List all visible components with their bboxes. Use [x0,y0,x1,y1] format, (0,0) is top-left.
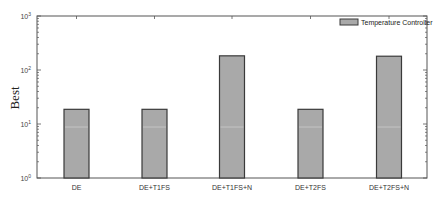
bar-de [64,109,89,178]
bar-de-t2fs [298,109,323,178]
x-tick-label: DE [72,184,82,191]
legend-swatch [340,19,358,25]
bar-de-t2fs-n [377,56,402,178]
bar-de-t1fs [142,109,167,178]
x-tick-label: DE+T2FS [295,184,326,191]
y-tick-label: 101 [20,119,31,128]
y-tick-label: 103 [20,11,31,20]
y-tick-label: 100 [20,173,31,182]
legend: Temperature Controller [340,19,433,27]
y-axis-label: Best [7,86,22,110]
bar-de-t1fs-n [220,56,245,178]
bars [64,56,402,178]
y-tick-label: 102 [20,65,31,74]
x-tick-label: DE+T1FS [139,184,170,191]
x-tick-label: DE+T2FS+N [369,184,409,191]
legend-label: Temperature Controller [361,19,433,27]
bar-chart: 100101102103 DEDE+T1FSDE+T1FS+NDE+T2FSDE… [0,0,439,198]
x-tick-label: DE+T1FS+N [212,184,252,191]
